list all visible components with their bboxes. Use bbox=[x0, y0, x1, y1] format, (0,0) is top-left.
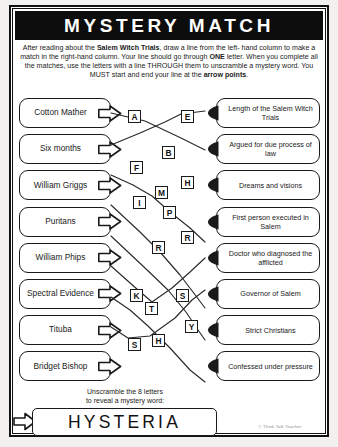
left-item[interactable]: Six months bbox=[19, 134, 111, 164]
right-item-label: Confessed under pressure bbox=[228, 362, 313, 371]
right-item-label: Dreams and visions bbox=[239, 181, 302, 190]
right-item-label: Argued for due process of law bbox=[226, 140, 315, 158]
left-item-label: Six months bbox=[40, 144, 81, 154]
left-item[interactable]: William Griggs bbox=[19, 170, 111, 200]
left-item[interactable]: William Phips bbox=[19, 243, 111, 273]
unscramble-line-2: to reveal a mystery word: bbox=[86, 397, 164, 404]
left-item-label: William Griggs bbox=[34, 181, 87, 191]
left-item[interactable]: Cotton Mather bbox=[19, 98, 111, 128]
right-item[interactable]: Strict Christians bbox=[216, 315, 320, 345]
right-item[interactable]: Dreams and visions bbox=[216, 170, 320, 200]
right-item-label: First person executed in Salem bbox=[226, 213, 315, 231]
left-item-label: Puritans bbox=[45, 217, 75, 227]
instructions-text: After reading about the Salem Witch Tria… bbox=[20, 44, 318, 80]
left-item[interactable]: Puritans bbox=[19, 207, 111, 237]
right-column: Length of the Salem Witch TrialsArgued f… bbox=[216, 98, 320, 388]
unscramble-line-1: Unscramble the 8 letters bbox=[87, 388, 163, 395]
right-item[interactable]: First person executed in Salem bbox=[216, 207, 320, 237]
right-item[interactable]: Governor of Salem bbox=[216, 279, 320, 309]
left-item[interactable]: Spectral Evidence bbox=[19, 279, 111, 309]
left-item-label: Tituba bbox=[49, 325, 72, 335]
unscramble-prompt: Unscramble the 8 letters to reveal a mys… bbox=[60, 388, 190, 405]
right-item[interactable]: Doctor who diagnosed the afflicted bbox=[216, 243, 320, 273]
right-item[interactable]: Argued for due process of law bbox=[216, 134, 320, 164]
mystery-word-box[interactable]: HYSTERIA bbox=[32, 408, 217, 436]
left-item-label: William Phips bbox=[36, 253, 86, 263]
right-item-label: Governor of Salem bbox=[240, 289, 300, 298]
worksheet-page: MYSTERY MATCH After reading about the Sa… bbox=[0, 0, 338, 447]
credit-line: © Think Talk Teacher bbox=[244, 424, 316, 429]
right-item[interactable]: Length of the Salem Witch Trials bbox=[216, 98, 320, 128]
right-item-label: Doctor who diagnosed the afflicted bbox=[226, 249, 315, 267]
left-column: Cotton MatherSix monthsWilliam GriggsPur… bbox=[19, 98, 111, 388]
mystery-word-value: HYSTERIA bbox=[68, 412, 181, 433]
left-item-label: Cotton Mather bbox=[34, 108, 87, 118]
right-item-label: Length of the Salem Witch Trials bbox=[226, 104, 315, 122]
left-item[interactable]: Tituba bbox=[19, 315, 111, 345]
left-item[interactable]: Bridget Bishop bbox=[19, 351, 111, 381]
left-item-label: Bridget Bishop bbox=[34, 362, 88, 372]
left-item-label: Spectral Evidence bbox=[27, 289, 94, 299]
right-item[interactable]: Confessed under pressure bbox=[216, 351, 320, 381]
title-banner: MYSTERY MATCH bbox=[15, 11, 323, 40]
page-title: MYSTERY MATCH bbox=[15, 11, 323, 40]
right-item-label: Strict Christians bbox=[245, 326, 295, 335]
